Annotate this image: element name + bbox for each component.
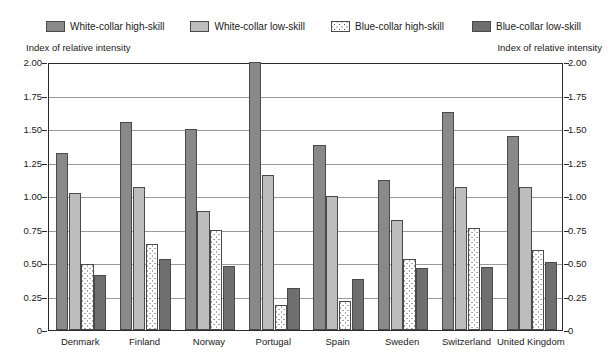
legend-swatch-icon-blue-collar-high-skill	[331, 21, 350, 32]
y-axis-tick-label-right: 0	[568, 326, 602, 336]
y-axis-tick-label-left: 1.25	[8, 159, 42, 169]
bar	[468, 228, 480, 330]
y-axis-tick-mark-right	[564, 231, 569, 232]
bar	[352, 279, 364, 330]
bar	[185, 129, 197, 330]
bar	[249, 62, 261, 330]
bar-group	[242, 63, 306, 330]
bar	[481, 267, 493, 330]
bar	[159, 259, 171, 330]
y-axis-tick-mark-right	[564, 130, 569, 131]
legend-item-blue-collar-low-skill: Blue-collar low-skill	[472, 19, 581, 34]
legend-swatch-icon-blue-collar-low-skill	[472, 21, 491, 32]
bar-group	[113, 63, 177, 330]
y-axis-tick-label-left: 1.00	[8, 192, 42, 202]
chart-legend: White-collar high-skill White-collar low…	[46, 19, 566, 34]
bar	[81, 264, 93, 330]
bar-group	[435, 63, 499, 330]
legend-label-white-collar-low-skill: White-collar low-skill	[214, 21, 305, 32]
legend-label-blue-collar-high-skill: Blue-collar high-skill	[355, 21, 444, 32]
legend-label-white-collar-high-skill: White-collar high-skill	[70, 21, 164, 32]
y-axis-tick-mark-left	[42, 97, 47, 98]
bar-group	[307, 63, 371, 330]
y-axis-tick-label-left: 0	[8, 326, 42, 336]
y-axis-tick-mark-left	[42, 197, 47, 198]
right-axis-caption: Index of relative intensity	[497, 42, 602, 53]
bar-group	[371, 63, 435, 330]
bar	[403, 259, 415, 330]
y-axis-tick-label-right: 1.50	[568, 125, 602, 135]
bar	[56, 153, 68, 330]
bar-group	[49, 63, 113, 330]
bar-group	[178, 63, 242, 330]
y-axis-tick-label-left: 0.50	[8, 259, 42, 269]
bar	[146, 244, 158, 330]
y-axis-tick-mark-left	[42, 130, 47, 131]
bar	[532, 250, 544, 330]
bar	[69, 193, 81, 330]
bar	[94, 275, 106, 330]
y-axis-tick-label-right: 2.00	[568, 58, 602, 68]
y-axis-tick-label-left: 1.50	[8, 125, 42, 135]
bar	[275, 305, 287, 330]
bar	[197, 211, 209, 330]
legend-label-blue-collar-low-skill: Blue-collar low-skill	[496, 21, 581, 32]
bar	[210, 230, 222, 331]
y-axis-tick-label-right: 1.00	[568, 192, 602, 202]
bar-group	[500, 63, 564, 330]
bar	[519, 187, 531, 330]
bar	[545, 262, 557, 330]
bar	[416, 268, 428, 330]
y-axis-tick-mark-right	[564, 164, 569, 165]
y-axis-tick-label-left: 0.25	[8, 293, 42, 303]
y-axis-tick-label-right: 1.75	[568, 92, 602, 102]
y-axis-tick-label-left: 0.75	[8, 226, 42, 236]
bar	[455, 187, 467, 330]
bar	[313, 145, 325, 330]
y-axis-tick-label-right: 0.25	[568, 293, 602, 303]
bar	[339, 301, 351, 330]
chart-root: White-collar high-skill White-collar low…	[0, 0, 610, 356]
legend-item-blue-collar-high-skill: Blue-collar high-skill	[331, 19, 444, 34]
bar	[442, 112, 454, 330]
bar	[507, 136, 519, 330]
plot-area	[48, 63, 563, 331]
left-axis-caption: Index of relative intensity	[26, 42, 131, 53]
y-axis-tick-label-right: 0.75	[568, 226, 602, 236]
y-axis-tick-mark-left	[42, 298, 47, 299]
legend-swatch-icon-white-collar-low-skill	[190, 21, 209, 32]
y-axis-tick-mark-right	[564, 264, 569, 265]
legend-item-white-collar-low-skill: White-collar low-skill	[190, 19, 305, 34]
y-axis-tick-mark-right	[564, 97, 569, 98]
y-axis-tick-label-right: 1.25	[568, 159, 602, 169]
bar	[287, 288, 299, 330]
y-axis-tick-mark-right	[564, 331, 569, 332]
bar	[133, 187, 145, 330]
y-axis-tick-label-right: 0.50	[568, 259, 602, 269]
bar	[262, 175, 274, 330]
bar	[120, 122, 132, 330]
y-axis-tick-mark-right	[564, 298, 569, 299]
y-axis-tick-label-left: 2.00	[8, 58, 42, 68]
legend-swatch-icon-white-collar-high-skill	[46, 21, 65, 32]
y-axis-tick-label-left: 1.75	[8, 92, 42, 102]
bar	[391, 220, 403, 330]
legend-item-white-collar-high-skill: White-collar high-skill	[46, 19, 164, 34]
y-axis-tick-mark-right	[564, 63, 569, 64]
y-axis-tick-mark-left	[42, 231, 47, 232]
bar	[223, 266, 235, 330]
y-axis-tick-mark-left	[42, 63, 47, 64]
bar	[378, 180, 390, 330]
y-axis-tick-mark-right	[564, 197, 569, 198]
y-axis-tick-mark-left	[42, 264, 47, 265]
bar	[326, 196, 338, 330]
y-axis-tick-mark-left	[42, 164, 47, 165]
y-axis-tick-mark-left	[42, 331, 47, 332]
x-axis-category-label: United Kingdom	[491, 336, 571, 347]
